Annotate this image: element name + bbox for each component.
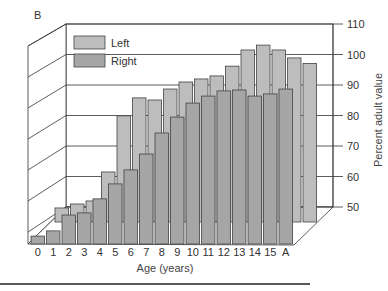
bar-right-7 xyxy=(140,154,154,244)
x-tick-label: 14 xyxy=(249,246,261,258)
x-tick-label: 10 xyxy=(187,246,199,258)
y-tick-label: 90 xyxy=(347,79,359,91)
y-tick-label: 80 xyxy=(347,110,359,122)
bar-right-8 xyxy=(155,133,169,244)
legend-label-left: Left xyxy=(111,37,129,49)
y-tick-label: 60 xyxy=(347,171,359,183)
x-tick-label: 4 xyxy=(97,246,103,258)
bar-right-12 xyxy=(217,91,231,244)
bar-right-6 xyxy=(124,170,138,244)
bar-right-13 xyxy=(233,90,247,244)
bar-right-10 xyxy=(186,103,200,244)
x-tick-label: 0 xyxy=(35,246,41,258)
bar-right-0 xyxy=(31,236,45,244)
bar-right-3 xyxy=(78,213,92,244)
bar-right-A xyxy=(279,89,293,244)
bar-right-9 xyxy=(171,117,185,244)
x-tick-label: 6 xyxy=(128,246,134,258)
x-tick-label: 1 xyxy=(50,246,56,258)
legend-swatch-right xyxy=(74,54,105,67)
x-axis-title: Age (years) xyxy=(137,262,194,274)
legend-label-right: Right xyxy=(111,55,137,67)
x-tick-label: 2 xyxy=(66,246,72,258)
x-tick-label: 9 xyxy=(174,246,180,258)
x-tick-label: A xyxy=(282,246,290,258)
x-tick-label: 8 xyxy=(159,246,165,258)
bar-right-1 xyxy=(47,231,61,244)
bar-right-4 xyxy=(93,199,107,244)
bar-right-5 xyxy=(109,184,123,244)
bar-right-2 xyxy=(62,215,76,244)
bar-chart-3d: 5060708090100110 0123456789101112131415A… xyxy=(0,0,388,291)
y-tick-label: 110 xyxy=(347,18,365,30)
bar-left-A xyxy=(303,63,317,222)
y-tick-label: 50 xyxy=(347,201,359,213)
y-axis: 5060708090100110 xyxy=(333,18,365,213)
y-tick-label: 100 xyxy=(347,49,365,61)
x-tick-label: 3 xyxy=(81,246,87,258)
x-tick-label: 5 xyxy=(112,246,118,258)
depth-label-b: B xyxy=(34,9,41,21)
bar-right-11 xyxy=(202,96,216,244)
y-tick-label: 70 xyxy=(347,140,359,152)
legend-swatch-left xyxy=(74,36,105,49)
x-tick-label: 12 xyxy=(218,246,230,258)
bar-right-14 xyxy=(248,96,262,244)
x-axis: 0123456789101112131415A xyxy=(35,246,290,258)
x-tick-label: 13 xyxy=(233,246,245,258)
x-tick-label: 11 xyxy=(203,246,214,258)
x-tick-label: 15 xyxy=(264,246,276,258)
y-axis-title: Percent adult value xyxy=(372,73,384,167)
x-tick-label: 7 xyxy=(143,246,149,258)
bar-right-15 xyxy=(264,94,278,244)
